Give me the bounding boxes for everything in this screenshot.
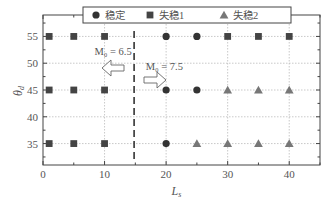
square-marker	[286, 33, 293, 40]
square-marker	[255, 33, 262, 40]
x-tick-label: 40	[284, 168, 296, 180]
scatter-chart: 0102030403540455055 M₀ = 6.5M₀ = 7.5 稳定失…	[0, 0, 336, 200]
y-tick-label: 40	[27, 111, 39, 123]
arrow-left-icon	[102, 60, 124, 76]
annotations: M₀ = 6.5M₀ = 7.5	[94, 46, 183, 88]
arrow-right-icon	[144, 72, 166, 88]
circle-marker	[193, 86, 200, 93]
grid	[43, 15, 320, 165]
y-tick-label: 35	[27, 138, 39, 150]
triangle-marker	[223, 139, 232, 147]
y-tick-label: 55	[27, 30, 39, 42]
square-marker	[147, 12, 154, 19]
y-axis-label-sub: d	[17, 85, 26, 90]
legend-label: 稳定	[105, 9, 126, 21]
square-marker	[70, 33, 77, 40]
legend-label: 失稳1	[159, 9, 184, 21]
triangle-marker	[223, 86, 232, 94]
annotation-m0-right: M₀ = 7.5	[146, 61, 183, 72]
square-marker	[101, 140, 108, 147]
circle-marker	[193, 33, 200, 40]
square-marker	[70, 87, 77, 94]
x-tick-label: 20	[161, 168, 173, 180]
x-tick-label: 30	[222, 168, 234, 180]
chart-canvas: 0102030403540455055 M₀ = 6.5M₀ = 7.5 稳定失…	[0, 0, 336, 200]
square-marker	[46, 33, 53, 40]
triangle-marker	[254, 139, 263, 147]
circle-marker	[163, 33, 170, 40]
square-marker	[101, 87, 108, 94]
x-tick-label: 10	[99, 168, 111, 180]
square-marker	[46, 87, 53, 94]
x-tick-label: 0	[40, 168, 46, 180]
legend-label: 失稳2	[233, 9, 258, 21]
x-axis-label-sub: s	[178, 190, 181, 199]
triangle-marker	[254, 86, 263, 94]
y-tick-label: 50	[27, 57, 39, 69]
square-marker	[101, 33, 108, 40]
y-axis-label: θd	[11, 85, 26, 96]
square-marker	[46, 140, 53, 147]
circle-marker	[163, 140, 170, 147]
circle-marker	[92, 11, 99, 18]
x-axis-label: Ls	[171, 184, 182, 199]
legend: 稳定失稳1失稳2	[83, 7, 291, 23]
annotation-m0-left: M₀ = 6.5	[94, 46, 131, 57]
square-marker	[70, 140, 77, 147]
square-marker	[224, 33, 231, 40]
circle-marker	[163, 86, 170, 93]
y-tick-label: 45	[27, 84, 39, 96]
